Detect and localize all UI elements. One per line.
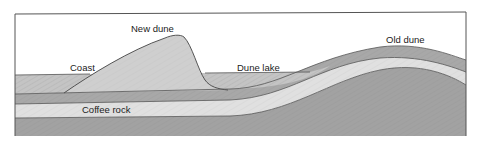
label-old-dune: Old dune bbox=[386, 34, 425, 45]
label-dune-lake: Dune lake bbox=[237, 62, 280, 73]
dune-cross-section-diagram: New dune Coast Dune lake Old dune Coffee… bbox=[0, 0, 477, 142]
label-coffee-rock: Coffee rock bbox=[82, 104, 131, 115]
label-coast: Coast bbox=[70, 62, 95, 73]
label-new-dune: New dune bbox=[131, 23, 174, 34]
